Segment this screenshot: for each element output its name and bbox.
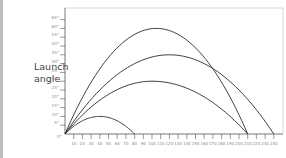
chart-frame: [65, 8, 283, 134]
y-tick-label: 25°: [52, 85, 59, 90]
trajectory-curve: [65, 81, 248, 134]
y-tick-label: 55°: [52, 32, 59, 37]
x-tick-label: 40: [97, 141, 103, 146]
x-tick-label: 200: [235, 141, 243, 146]
x-tick-label: 210: [244, 141, 252, 146]
x-tick-label: 180: [218, 141, 226, 146]
x-tick-label: 100: [148, 141, 156, 146]
y-tick-label: 40°: [52, 59, 59, 64]
x-tick-label: 140: [183, 141, 191, 146]
x-tick-label: 10: [71, 141, 77, 146]
x-tick-label: 50: [106, 141, 112, 146]
x-tick-label: 30: [89, 141, 95, 146]
origin-label: 0°: [57, 134, 62, 139]
y-tick-label: 20°: [52, 94, 59, 99]
x-tick-label: 70: [123, 141, 129, 146]
x-axis: 1020304050607080901001101201301401501601…: [65, 134, 283, 146]
y-tick-label: 15°: [52, 103, 59, 108]
trajectory-chart: 5°10°15°20°25°30°35°40°45°50°55°60°65° 1…: [0, 0, 286, 158]
x-tick-label: 60: [115, 141, 121, 146]
x-tick-label: 110: [157, 141, 165, 146]
x-tick-label: 160: [200, 141, 208, 146]
x-tick-label: 190: [226, 141, 234, 146]
y-tick-label: 30°: [52, 76, 59, 81]
x-tick-label: 20: [80, 141, 86, 146]
x-tick-label: 90: [141, 141, 147, 146]
y-axis: 5°10°15°20°25°30°35°40°45°50°55°60°65°: [52, 8, 65, 134]
x-tick-label: 220: [253, 141, 261, 146]
x-tick-label: 120: [166, 141, 174, 146]
y-tick-label: 65°: [52, 15, 59, 20]
x-tick-label: 130: [174, 141, 182, 146]
x-tick-label: 240: [270, 141, 278, 146]
y-tick-label: 45°: [52, 50, 59, 55]
x-tick-label: 230: [261, 141, 269, 146]
x-tick-label: 150: [192, 141, 200, 146]
x-tick-label: 170: [209, 141, 217, 146]
y-tick-label: 10°: [52, 112, 59, 117]
y-tick-label: 5°: [54, 120, 59, 125]
x-tick-label: 80: [132, 141, 138, 146]
trajectory-curves: [65, 28, 274, 134]
y-tick-label: 60°: [52, 24, 59, 29]
y-tick-label: 35°: [52, 68, 59, 73]
y-tick-label: 50°: [52, 41, 59, 46]
